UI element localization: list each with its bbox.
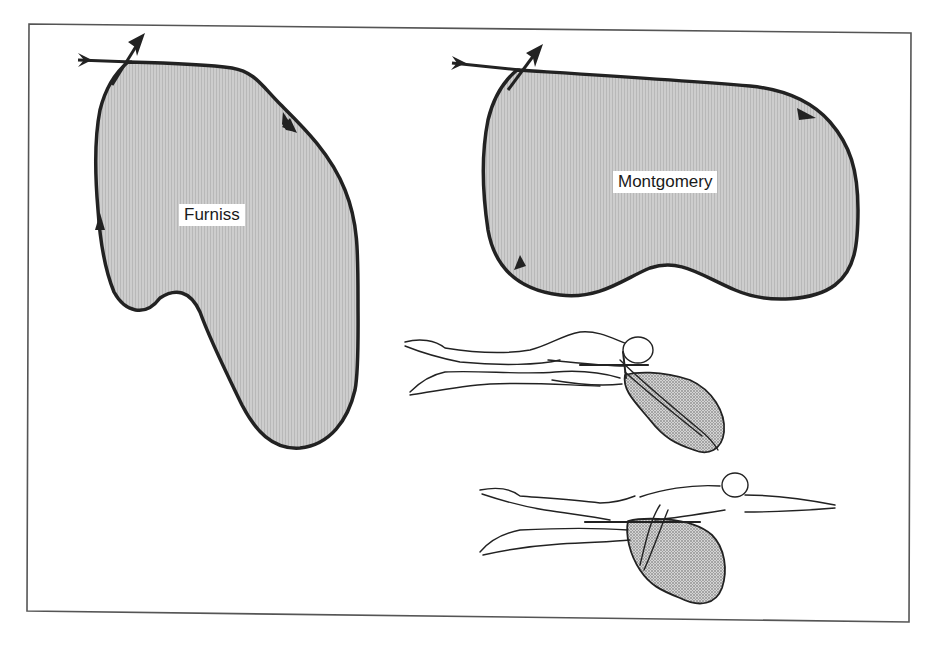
montgomery-label: Montgomery — [613, 171, 717, 193]
swimmer-upper — [405, 332, 724, 453]
swimmer-lower — [480, 473, 835, 603]
figure-svg — [0, 0, 932, 646]
figure-canvas: Furniss Montgomery — [0, 0, 932, 646]
furniss-label: Furniss — [179, 204, 245, 226]
furniss-pull-shape — [78, 33, 358, 448]
